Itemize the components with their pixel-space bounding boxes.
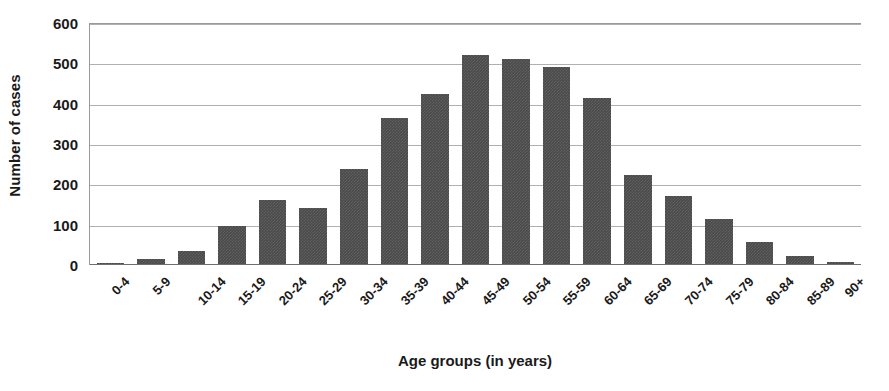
y-axis-tick-label: 200 (53, 176, 78, 193)
bar-slot (618, 24, 659, 265)
bar-slot (333, 24, 374, 265)
x-tick-slot: 40-44 (414, 266, 455, 338)
bar-slot (415, 24, 456, 265)
x-tick-slot: 55-59 (536, 266, 577, 338)
x-tick-slot: 5-9 (130, 266, 171, 338)
plot-area (89, 23, 861, 265)
bar-slot (90, 24, 131, 265)
y-axis-title: Number of cases (0, 0, 28, 270)
bar[interactable] (462, 55, 490, 265)
bar[interactable] (218, 226, 246, 265)
y-axis-tick-labels: 0100200300400500600 (28, 23, 84, 265)
x-tick-slot: 65-69 (617, 266, 658, 338)
x-tick-slot: 75-79 (698, 266, 739, 338)
bar[interactable] (299, 208, 327, 265)
bar[interactable] (381, 118, 409, 265)
bar-slot (374, 24, 415, 265)
bar-slot (699, 24, 740, 265)
x-axis-title: Age groups (in years) (89, 352, 861, 369)
bar-slot (739, 24, 780, 265)
bar[interactable] (624, 175, 652, 265)
y-axis-tick-label: 300 (53, 136, 78, 153)
bar[interactable] (178, 251, 206, 265)
bar-slot (252, 24, 293, 265)
y-axis-title-text: Number of cases (6, 74, 23, 196)
bar-slot (577, 24, 618, 265)
bar[interactable] (259, 200, 287, 265)
y-axis-tick-label: 600 (53, 15, 78, 32)
bar-slot (780, 24, 821, 265)
x-axis-line (90, 264, 861, 265)
bar[interactable] (665, 196, 693, 265)
x-tick-slot: 50-54 (495, 266, 536, 338)
bar-slot (212, 24, 253, 265)
bar[interactable] (543, 67, 571, 265)
x-tick-slot: 90+ (820, 266, 861, 338)
y-axis-tick-label: 400 (53, 95, 78, 112)
bar[interactable] (340, 169, 368, 265)
x-tick-slot: 60-64 (577, 266, 618, 338)
bar-slot (496, 24, 537, 265)
x-tick-slot: 20-24 (252, 266, 293, 338)
x-tick-slot: 35-39 (373, 266, 414, 338)
bar-slot (293, 24, 334, 265)
x-tick-slot: 0-4 (89, 266, 130, 338)
x-tick-slot: 30-34 (333, 266, 374, 338)
x-tick-slot: 85-89 (780, 266, 821, 338)
bar[interactable] (502, 59, 530, 265)
bars-container (90, 24, 861, 265)
y-axis-tick-label: 500 (53, 55, 78, 72)
x-tick-slot: 80-84 (739, 266, 780, 338)
x-tick-slot: 70-74 (658, 266, 699, 338)
x-axis-tick-labels: 0-45-910-1415-1920-2425-2930-3435-3940-4… (89, 266, 861, 338)
bar-chart: Number of cases 0100200300400500600 0-45… (0, 0, 889, 391)
bar-slot (171, 24, 212, 265)
bar-slot (536, 24, 577, 265)
bar-slot (131, 24, 172, 265)
bar[interactable] (746, 242, 774, 265)
x-tick-slot: 45-49 (455, 266, 496, 338)
bar-slot (455, 24, 496, 265)
bar[interactable] (705, 219, 733, 265)
bar-slot (820, 24, 861, 265)
x-tick-slot: 15-19 (211, 266, 252, 338)
y-axis-tick-label: 0 (70, 257, 78, 274)
y-axis-tick-label: 100 (53, 216, 78, 233)
x-axis-tick-label: 90+ (841, 274, 867, 300)
x-tick-slot: 10-14 (170, 266, 211, 338)
bar[interactable] (583, 98, 611, 265)
bar[interactable] (421, 94, 449, 265)
bar-slot (658, 24, 699, 265)
x-tick-slot: 25-29 (292, 266, 333, 338)
